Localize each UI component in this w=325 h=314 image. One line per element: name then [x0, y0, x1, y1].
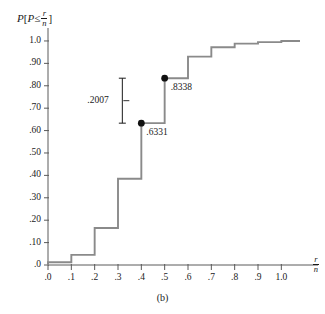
- x-axis-title-fraction: rn: [313, 255, 319, 273]
- y-tick-label: 1.0: [17, 36, 41, 46]
- x-tick-label: .8: [223, 273, 247, 283]
- y-tick-label: .20: [17, 215, 41, 225]
- ecdf-figure: P[P≤rn] rn .0.10.20.30.40.50.60.70.80.90…: [0, 0, 325, 314]
- lower-point-label: .6331: [146, 128, 167, 138]
- x-tick-label: 1.0: [269, 273, 293, 283]
- x-tick-label: .9: [246, 273, 270, 283]
- x-tick-label: .7: [199, 273, 223, 283]
- x-fraction-numerator: r: [313, 255, 319, 264]
- axes: [44, 28, 318, 270]
- difference-annotation: [119, 78, 129, 123]
- y-axis-title: P[P≤rn]: [17, 9, 52, 27]
- step-curve: [48, 41, 300, 265]
- fraction-numerator: r: [41, 9, 47, 18]
- y-tick-label: .40: [17, 170, 41, 180]
- figure-caption: (b): [0, 293, 325, 303]
- y-axis-title-lead: P: [17, 12, 24, 24]
- difference-label: .2007: [87, 96, 108, 106]
- y-tick-label: .80: [17, 81, 41, 91]
- y-tick-label: .30: [17, 193, 41, 203]
- x-axis-title: rn: [312, 255, 320, 273]
- x-tick-label: .5: [153, 273, 177, 283]
- y-axis-title-close-bracket: ]: [48, 12, 52, 24]
- marked-points: [138, 75, 168, 127]
- x-tick-label: .2: [83, 273, 107, 283]
- y-tick-label: .60: [17, 126, 41, 136]
- plot-canvas: [0, 0, 325, 314]
- x-tick-label: .0: [36, 273, 60, 283]
- y-tick-label: .0: [17, 260, 41, 270]
- x-fraction-denominator: n: [313, 264, 319, 274]
- x-tick-label: .1: [59, 273, 83, 283]
- x-tick-label: .6: [176, 273, 200, 283]
- x-tick-label: .4: [129, 273, 153, 283]
- y-axis-title-fraction: rn: [41, 9, 47, 27]
- y-tick-label: .10: [17, 238, 41, 248]
- y-axis-title-relation: ≤: [34, 12, 40, 24]
- y-tick-label: .70: [17, 103, 41, 113]
- fraction-denominator: n: [41, 18, 47, 28]
- upper-point-label: .8338: [171, 83, 192, 93]
- y-tick-label: .90: [17, 58, 41, 68]
- x-tick-label: .3: [106, 273, 130, 283]
- y-tick-label: .50: [17, 148, 41, 158]
